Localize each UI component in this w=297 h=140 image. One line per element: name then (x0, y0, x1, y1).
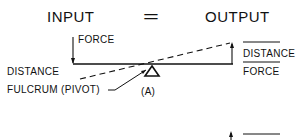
heading-equals: = (143, 8, 160, 25)
figure-label: (A) (141, 87, 155, 97)
label-force-input: FORCE (78, 35, 115, 45)
leader-arrowhead-icon (141, 70, 146, 74)
arrowhead-down-icon (71, 58, 75, 64)
arrowhead-up-icon (230, 42, 234, 48)
arrowhead-up-icon (229, 131, 233, 137)
heading-input: INPUT (47, 9, 95, 24)
fulcrum-triangle-icon (145, 66, 159, 76)
label-distance-input: DISTANCE (7, 67, 59, 77)
label-distance-output: DISTANCE (243, 49, 295, 59)
label-fulcrum: FULCRUM (PIVOT) (7, 85, 100, 95)
heading-output: OUTPUT (205, 9, 270, 24)
tilted-beam-dashed (80, 43, 230, 79)
label-force-output: FORCE (243, 67, 280, 77)
